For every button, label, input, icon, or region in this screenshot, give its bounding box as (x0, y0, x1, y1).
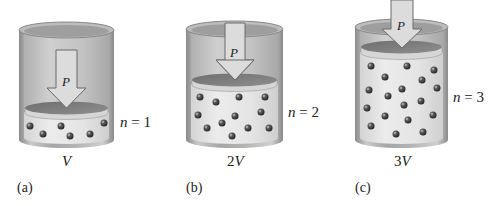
panel-label-b: (b) (186, 180, 202, 196)
pressure-label-a: P (61, 74, 70, 89)
moles-value: 1 (143, 114, 151, 130)
cylinder-c: P (355, 0, 448, 148)
moles-eq: = (296, 104, 312, 120)
cylinder-a: P (19, 22, 114, 148)
moles-value: 2 (311, 104, 319, 120)
moles-var: n (288, 104, 296, 120)
volume-label-a: V (62, 153, 71, 170)
moles-var: n (453, 89, 461, 105)
panel-label-c: (c) (355, 180, 371, 196)
volume-var: V (62, 153, 71, 169)
volume-coef: 3 (394, 153, 402, 169)
moles-eq: = (461, 89, 477, 105)
volume-var: V (235, 153, 244, 169)
pressure-label-b: P (229, 45, 238, 60)
pressure-label-c: P (396, 18, 405, 33)
moles-label-c: n = 3 (453, 89, 484, 106)
cylinder-b: P (186, 21, 283, 148)
volume-coef: 2 (227, 153, 235, 169)
moles-label-a: n = 1 (120, 114, 151, 131)
moles-label-b: n = 2 (288, 104, 319, 121)
volume-label-c: 3V (394, 153, 411, 170)
volume-var: V (402, 153, 411, 169)
panel-label-a: (a) (17, 180, 33, 196)
moles-eq: = (128, 114, 144, 130)
gas-law-diagram: P P (0, 0, 492, 206)
moles-value: 3 (476, 89, 484, 105)
moles-var: n (120, 114, 128, 130)
volume-label-b: 2V (227, 153, 244, 170)
